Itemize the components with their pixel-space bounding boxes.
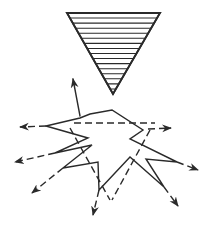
starburst bbox=[15, 79, 198, 215]
arrow-left-middle-icon bbox=[15, 153, 55, 162]
arrow-bottom-icon bbox=[93, 190, 99, 215]
hatched-triangle bbox=[60, 13, 170, 94]
diagram-canvas: Inverted hatched triangle above an irreg… bbox=[0, 0, 210, 230]
diagram-svg bbox=[0, 0, 210, 230]
starburst-arrows bbox=[15, 79, 198, 215]
arrow-left-upper-icon bbox=[20, 126, 46, 127]
arrow-up-icon bbox=[73, 79, 80, 116]
arrow-right-upper-icon bbox=[148, 128, 171, 129]
arrow-right-lower-icon bbox=[177, 162, 198, 170]
dashed-diagonal-right bbox=[112, 130, 150, 200]
arrow-left-lower-icon bbox=[32, 168, 63, 193]
arrow-bottom-right-icon bbox=[164, 187, 178, 206]
starburst-dashed-lines bbox=[70, 123, 155, 200]
starburst-outline bbox=[46, 110, 177, 190]
